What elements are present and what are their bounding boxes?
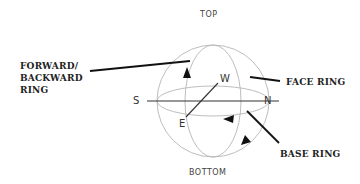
forward-backward-ring-label: FORWARD/ BACKWARD RING: [20, 60, 83, 96]
west-label: W: [220, 73, 230, 84]
forward-backward-leader: [90, 61, 190, 71]
east-west-axis: [186, 83, 218, 117]
bottom-label: BOTTOM: [189, 168, 226, 177]
face-ring-label: FACE RING: [286, 76, 345, 88]
base-ring-leader: [247, 111, 279, 143]
east-label: E: [179, 118, 185, 129]
north-label: N: [264, 95, 271, 106]
south-label: S: [133, 95, 139, 106]
arrow-left-icon: [223, 115, 234, 123]
ring-sphere-diagram: TOP BOTTOM S N W E FORWARD/ BACKWARD RIN…: [0, 0, 360, 184]
top-label: TOP: [200, 10, 218, 19]
base-ring-label: BASE RING: [280, 148, 341, 160]
